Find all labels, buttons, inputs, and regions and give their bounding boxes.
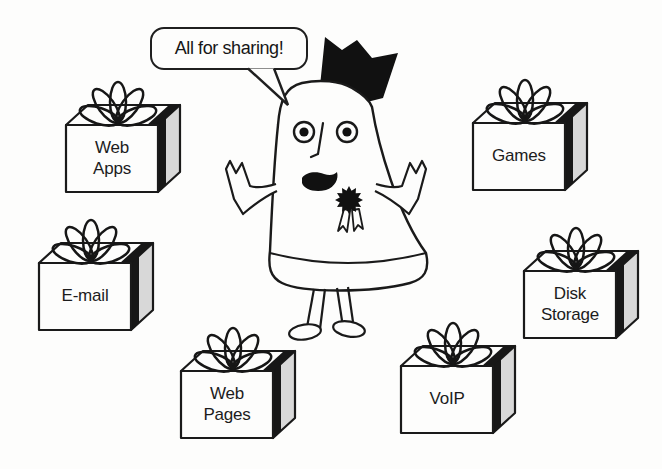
right-eye [337,122,357,142]
left-eye [294,122,314,142]
gift-box-disk-storage: Disk Storage [518,211,658,341]
gift-label-email: E-mail [39,263,131,330]
speech-bubble-tail [236,67,300,109]
right-shoe [332,319,366,339]
illustration-stage: All for sharing! [0,0,662,469]
left-shoe [288,322,322,341]
gift-label-voip: VoIP [401,366,493,433]
gift-label-web-apps: Web Apps [66,125,158,192]
speech-bubble: All for sharing! [150,27,308,70]
left-arm [226,161,277,214]
gift-label-web-pages: Web Pages [181,371,273,438]
gift-box-web-apps: Web Apps [60,65,200,195]
speech-bubble-text: All for sharing! [175,38,284,59]
gift-box-games: Games [467,63,607,193]
gift-label-games: Games [473,123,565,190]
gift-box-email: E-mail [33,203,173,333]
gift-label-disk-storage: Disk Storage [524,271,616,338]
